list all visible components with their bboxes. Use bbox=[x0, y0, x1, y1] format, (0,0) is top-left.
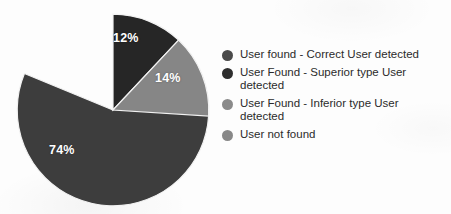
legend-item-superior-type[interactable]: User Found - Superior type User detected bbox=[222, 66, 451, 93]
legend-swatch-icon bbox=[222, 99, 233, 110]
legend-item-label: User Found - Inferior type User detected bbox=[240, 97, 440, 124]
pie-label-correct-user: 74% bbox=[49, 143, 75, 157]
pie-chart-area: 12% 14% 74% bbox=[0, 0, 225, 214]
legend-swatch-icon bbox=[222, 68, 233, 79]
chart-legend: User found - Correct User detected User … bbox=[222, 48, 451, 145]
pie-label-superior-type: 12% bbox=[113, 31, 139, 45]
pie-label-inferior-type: 14% bbox=[155, 71, 181, 85]
legend-item-label: User not found bbox=[240, 128, 315, 142]
legend-item-correct-user[interactable]: User found - Correct User detected bbox=[222, 48, 451, 62]
legend-item-label: User found - Correct User detected bbox=[240, 48, 419, 62]
legend-swatch-icon bbox=[222, 130, 233, 141]
legend-item-label: User Found - Superior type User detected bbox=[240, 66, 440, 93]
legend-item-user-not-found[interactable]: User not found bbox=[222, 128, 451, 142]
legend-item-inferior-type[interactable]: User Found - Inferior type User detected bbox=[222, 97, 451, 124]
legend-swatch-icon bbox=[222, 50, 233, 61]
